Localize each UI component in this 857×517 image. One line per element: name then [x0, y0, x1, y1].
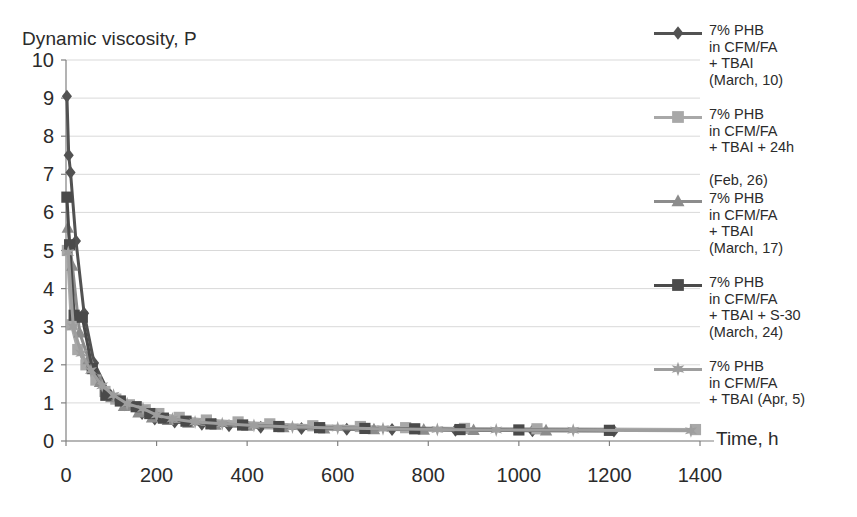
legend-marker-triangle-icon [654, 193, 702, 209]
legend-label: 7% PHB in CFM/FA + TBAI (Apr, 5) [702, 358, 805, 408]
series-line [67, 197, 610, 430]
data-point-marker [62, 90, 72, 103]
legend-entry[interactable]: 7% PHB in CFM/FA + TBAI (Apr, 5) [654, 358, 857, 408]
legend-label: 7% PHB in CFM/FA + TBAI + 24h (Feb, 26) [702, 106, 794, 189]
legend-label: 7% PHB in CFM/FA + TBAI + S-30 (March, 2… [702, 274, 801, 340]
data-series-layer [61, 90, 701, 438]
legend-key-marker [654, 361, 702, 377]
data-point-marker [64, 149, 74, 162]
data-point-marker [65, 166, 75, 179]
legend-marker-diamond-icon [654, 25, 702, 41]
series-line [67, 96, 614, 431]
series-line [68, 228, 546, 431]
data-series [62, 90, 619, 438]
data-point-marker [61, 192, 72, 203]
legend-marker-square-icon [654, 109, 702, 125]
legend-entry[interactable]: 7% PHB in CFM/FA + TBAI (March, 17) [654, 190, 857, 256]
legend-entry[interactable]: 7% PHB in CFM/FA + TBAI + 24h (Feb, 26) [654, 106, 857, 189]
axis-lines [61, 60, 714, 446]
data-series [61, 192, 615, 436]
chart-figure: Dynamic viscosity, P Time, h 01234567891… [0, 0, 857, 517]
legend-label: 7% PHB in CFM/FA + TBAI (March, 10) [702, 22, 783, 88]
series-line [68, 252, 691, 430]
legend-entry[interactable]: 7% PHB in CFM/FA + TBAI (March, 10) [654, 22, 857, 88]
data-point-marker [64, 239, 75, 250]
legend-key-marker [654, 193, 702, 209]
gridlines [66, 60, 700, 441]
legend-key-marker [654, 109, 702, 125]
legend-entry[interactable]: 7% PHB in CFM/FA + TBAI + S-30 (March, 2… [654, 274, 857, 340]
legend-key-marker [654, 277, 702, 293]
legend-marker-star-icon [654, 361, 702, 377]
legend-marker-square-dark-icon [654, 277, 702, 293]
data-series [62, 245, 701, 435]
data-point-marker [77, 312, 88, 323]
legend-key-marker [654, 25, 702, 41]
legend-label: 7% PHB in CFM/FA + TBAI (March, 17) [702, 190, 783, 256]
